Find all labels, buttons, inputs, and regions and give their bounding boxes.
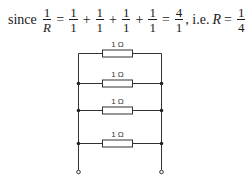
resistor-2-label: 1 Ω [111,70,124,79]
resistor-4 [103,140,133,147]
right-terminal [160,170,164,174]
resistor-1-label: 1 Ω [111,40,124,49]
resistor-2 [103,80,133,87]
left-terminal [77,170,81,174]
resistor-3-label: 1 Ω [111,97,124,106]
parallel-resistor-circuit: 1 Ω 1 Ω 1 Ω 1 Ω [0,0,248,180]
resistor-1 [103,50,133,57]
resistor-4-label: 1 Ω [111,130,124,139]
resistor-3 [103,107,133,114]
